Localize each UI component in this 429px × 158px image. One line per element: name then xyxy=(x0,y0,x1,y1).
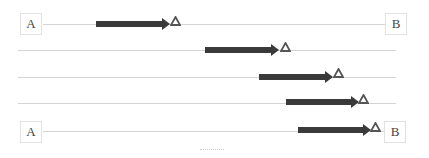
row-4-triangle-icon xyxy=(358,94,369,104)
node-b-bottom: B xyxy=(384,121,406,143)
node-a-top-label: A xyxy=(26,16,35,32)
row-5-arrow xyxy=(298,127,373,133)
row-2-triangle-icon xyxy=(280,42,291,52)
row-5-triangle-icon xyxy=(370,122,381,132)
node-b-bottom-label: B xyxy=(391,124,400,140)
row-1-arrow xyxy=(96,21,172,27)
row-1-line xyxy=(43,24,385,25)
row-1-triangle-icon xyxy=(170,16,181,26)
node-b-top: B xyxy=(385,13,407,35)
row-4-arrow xyxy=(286,99,361,105)
node-a-bottom-label: A xyxy=(26,124,35,140)
node-a-bottom: A xyxy=(20,121,42,143)
node-a-top: A xyxy=(20,13,42,35)
row-3-arrow xyxy=(259,74,335,80)
dotted-mark xyxy=(200,149,224,151)
row-2-arrow xyxy=(205,47,281,53)
row-3-triangle-icon xyxy=(333,68,344,78)
node-b-top-label: B xyxy=(392,16,401,32)
